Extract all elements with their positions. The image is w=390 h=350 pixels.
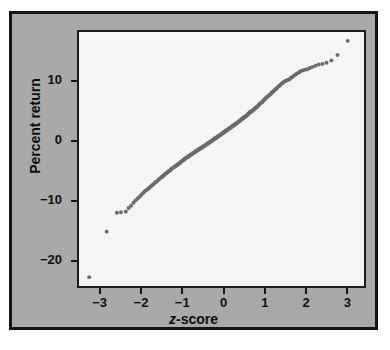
x-tick-mark — [99, 288, 101, 294]
x-tick-mark — [181, 288, 183, 294]
x-tick-label: 3 — [332, 295, 362, 310]
x-tick-label: −3 — [85, 295, 115, 310]
data-point — [336, 53, 340, 57]
data-point — [321, 62, 325, 66]
data-point — [317, 63, 321, 67]
y-tick-mark — [71, 200, 77, 202]
x-tick-label: −1 — [167, 295, 197, 310]
chart-area: z-score Percent return −3−2−10123100−10−… — [12, 14, 375, 327]
data-point — [105, 230, 109, 234]
x-tick-mark — [305, 288, 307, 294]
y-tick-label: 10 — [22, 74, 62, 86]
x-tick-label: 0 — [209, 295, 239, 310]
data-point — [115, 211, 119, 215]
y-tick-mark — [71, 260, 77, 262]
data-point — [119, 210, 123, 214]
y-tick-mark — [71, 140, 77, 142]
figure-container: z-score Percent return −3−2−10123100−10−… — [0, 0, 390, 350]
plot-panel — [77, 30, 366, 288]
scatter-points-layer — [79, 32, 364, 286]
x-tick-mark — [346, 288, 348, 294]
x-tick-mark — [264, 288, 266, 294]
x-tick-mark — [140, 288, 142, 294]
data-point — [325, 61, 329, 65]
y-tick-label: −10 — [22, 194, 62, 206]
x-axis-label-prefix: z — [169, 311, 176, 327]
y-tick-mark — [71, 80, 77, 82]
x-tick-label: 1 — [250, 295, 280, 310]
x-axis-label-suffix: -score — [176, 311, 218, 327]
y-tick-label: −20 — [22, 254, 62, 266]
data-point — [346, 39, 350, 43]
x-tick-label: 2 — [291, 295, 321, 310]
x-tick-mark — [223, 288, 225, 294]
x-tick-label: −2 — [126, 295, 156, 310]
data-point — [329, 58, 333, 62]
data-point — [124, 210, 128, 214]
y-tick-label: 0 — [22, 134, 62, 146]
data-point — [87, 275, 91, 279]
x-axis-label: z-score — [12, 311, 375, 327]
figure-outer-frame: z-score Percent return −3−2−10123100−10−… — [9, 11, 378, 330]
